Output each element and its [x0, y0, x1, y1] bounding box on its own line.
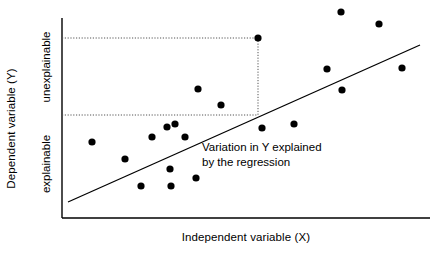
axis-lines [62, 18, 430, 218]
scatter-point [171, 120, 178, 127]
scatter-point [163, 123, 170, 130]
scatter-point [323, 65, 330, 72]
regression-variation-figure: Dependent variable (Y) unexplainable exp… [0, 0, 441, 257]
regression-line [68, 45, 420, 202]
scatter-plot-canvas [0, 0, 441, 257]
x-axis-title: Independent variable (X) [62, 231, 430, 243]
scatter-point [290, 120, 297, 127]
scatter-point [338, 86, 345, 93]
band-label-unexplainable: unexplainable [36, 18, 56, 116]
scatter-point [88, 138, 95, 145]
regression-annotation: Variation in Y explained by the regressi… [202, 140, 322, 170]
scatter-point [181, 133, 188, 140]
scatter-point [337, 8, 344, 15]
scatter-point [192, 174, 199, 181]
scatter-point [166, 165, 173, 172]
band-label-explainable: explainable [36, 116, 56, 212]
scatter-point [375, 20, 382, 27]
regression-annotation-line-1: Variation in Y explained [202, 140, 322, 155]
scatter-point [217, 101, 224, 108]
scatter-point [167, 182, 174, 189]
y-axis-title: Dependent variable (Y) [0, 0, 22, 257]
scatter-point [398, 64, 405, 71]
regression-annotation-line-2: by the regression [202, 155, 322, 170]
scatter-point [194, 85, 201, 92]
scatter-point [121, 155, 128, 162]
scatter-point [148, 133, 155, 140]
unexplained-variation-box [62, 38, 258, 115]
scatter-point [137, 182, 144, 189]
scatter-point [254, 34, 261, 41]
scatter-point [258, 124, 265, 131]
